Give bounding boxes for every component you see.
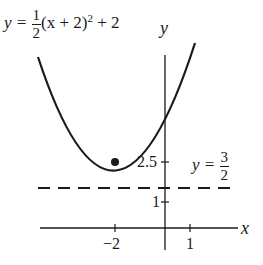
fraction-denominator: 2 xyxy=(32,25,42,41)
y-axis-label: y xyxy=(160,19,168,37)
function-label-body: (x + 2) xyxy=(41,13,87,32)
function-label-fraction: 12 xyxy=(32,8,42,41)
y-tick-label-2-5: 2.5 xyxy=(137,154,157,170)
asymptote-label: y = 32 xyxy=(192,150,229,183)
fraction-denominator: 2 xyxy=(220,167,230,183)
fraction-numerator: 1 xyxy=(32,8,42,25)
asymptote-label-prefix: y = xyxy=(192,155,220,174)
function-label-prefix: y = xyxy=(4,13,32,32)
x-axis-label: x xyxy=(241,219,249,237)
x-tick-label-1: 1 xyxy=(186,236,194,252)
parabola-curve xyxy=(38,43,195,171)
asymptote-label-fraction: 32 xyxy=(220,150,230,183)
fraction-numerator: 3 xyxy=(220,150,230,167)
data-point xyxy=(111,158,119,166)
function-label: y = 12(x + 2)2 + 2 xyxy=(4,8,120,41)
y-tick-label-1: 1 xyxy=(152,194,160,210)
function-label-suffix: + 2 xyxy=(93,13,120,32)
x-tick-label-neg2: −2 xyxy=(103,236,120,252)
